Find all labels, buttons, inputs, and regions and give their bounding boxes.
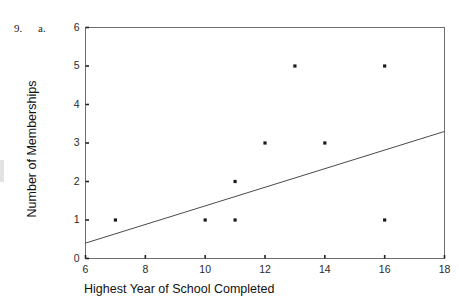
scatter-chart: Number of Memberships Highest Year of Sc…	[0, 0, 459, 307]
data-point	[263, 141, 266, 144]
y-tick-label: 1	[64, 213, 80, 225]
x-tick-label: 12	[253, 263, 277, 275]
y-tick-label: 5	[64, 59, 80, 71]
data-point	[293, 64, 296, 67]
x-tick-label: 8	[133, 263, 157, 275]
data-point	[114, 218, 117, 221]
y-tick-label: 6	[64, 21, 80, 33]
trend-line	[86, 131, 445, 243]
data-point	[233, 180, 236, 183]
x-tick-label: 6	[74, 263, 98, 275]
data-points	[114, 64, 386, 221]
data-point	[233, 218, 236, 221]
y-tick-label: 3	[64, 136, 80, 148]
data-point	[204, 218, 207, 221]
x-tick-label: 14	[313, 263, 337, 275]
worksheet-page: 9. a. Number of Memberships Highest Year…	[0, 0, 459, 307]
data-point	[383, 64, 386, 67]
x-tick-label: 16	[373, 263, 397, 275]
data-point	[323, 141, 326, 144]
y-tick-label: 2	[64, 175, 80, 187]
x-tick-label: 10	[193, 263, 217, 275]
y-tick-label: 4	[64, 98, 80, 110]
x-tick-label: 18	[433, 263, 457, 275]
data-point	[383, 218, 386, 221]
